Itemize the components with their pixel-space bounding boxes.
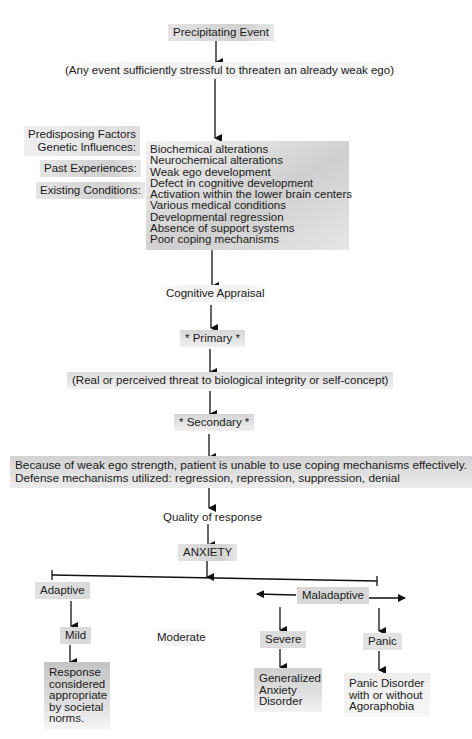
- mild-outcome-line: Response: [49, 667, 105, 679]
- primary-note-text: (Real or perceived threat to biological …: [72, 374, 388, 386]
- panic-box: Panic: [363, 633, 402, 650]
- past-experiences-label: Past Experiences:: [44, 162, 137, 174]
- severe-outcome-line: Disorder: [259, 696, 317, 708]
- cognitive-appraisal-label: Cognitive Appraisal: [166, 287, 264, 299]
- secondary-note-box: Because of weak ego strength, patient is…: [10, 456, 472, 488]
- factor-item: Neurochemical alterations: [150, 155, 344, 166]
- panic-outcome-line: Panic Disorder: [349, 678, 425, 690]
- severe-box: Severe: [260, 631, 306, 648]
- mild-outcome-box: Response considered appropriate by socie…: [44, 662, 110, 729]
- mild-label: Mild: [65, 629, 86, 641]
- mild-box: Mild: [60, 627, 91, 644]
- precipitating-event-label: Precipitating Event: [173, 26, 269, 38]
- severe-outcome-line: Generalized: [259, 673, 317, 685]
- secondary-label: * Secondary *: [179, 416, 249, 428]
- quality-of-response-box: Quality of response: [158, 509, 267, 526]
- secondary-note-line: Defense mechanisms utilized: regression,…: [15, 472, 467, 485]
- adaptive-label: Adaptive: [40, 584, 85, 596]
- severe-outcome-box: Generalized Anxiety Disorder: [254, 668, 322, 712]
- moderate-box: Moderate: [152, 629, 211, 646]
- existing-conditions-box: Existing Conditions:: [36, 182, 145, 199]
- quality-of-response-label: Quality of response: [163, 511, 262, 523]
- primary-label: * Primary *: [185, 332, 240, 344]
- predisposing-factors-box: Predisposing Factors Genetic Influences:: [24, 126, 140, 156]
- precipitating-event-box: Precipitating Event: [168, 24, 274, 41]
- panic-label: Panic: [368, 635, 397, 647]
- panic-outcome-line: Agoraphobia: [349, 701, 425, 713]
- mild-outcome-line: appropriate: [49, 690, 105, 702]
- predisposing-factors-heading: Predisposing Factors: [28, 128, 136, 141]
- anxiety-label: ANXIETY: [183, 546, 232, 558]
- existing-conditions-label: Existing Conditions:: [40, 184, 141, 196]
- past-experiences-box: Past Experiences:: [40, 160, 141, 177]
- factor-item: Poor coping mechanisms: [150, 234, 344, 245]
- precipitating-note: (Any event sufficiently stressful to thr…: [60, 62, 399, 79]
- panic-outcome-box: Panic Disorder with or without Agoraphob…: [344, 673, 430, 717]
- maladaptive-label: Maladaptive: [302, 589, 364, 601]
- factors-list-box: Biochemical alterations Neurochemical al…: [146, 141, 349, 250]
- moderate-label: Moderate: [157, 631, 206, 643]
- precipitating-note-text: (Any event sufficiently stressful to thr…: [65, 64, 394, 76]
- secondary-box: * Secondary *: [174, 414, 254, 431]
- adaptive-box: Adaptive: [35, 582, 90, 599]
- cognitive-appraisal-box: Cognitive Appraisal: [161, 285, 269, 302]
- maladaptive-box: Maladaptive: [297, 587, 369, 604]
- severe-label: Severe: [265, 633, 301, 645]
- primary-box: * Primary *: [180, 330, 245, 347]
- genetic-influences-label: Genetic Influences:: [28, 141, 136, 154]
- primary-note-box: (Real or perceived threat to biological …: [67, 372, 393, 389]
- anxiety-box: ANXIETY: [178, 544, 237, 561]
- mild-outcome-line: norms.: [49, 713, 105, 725]
